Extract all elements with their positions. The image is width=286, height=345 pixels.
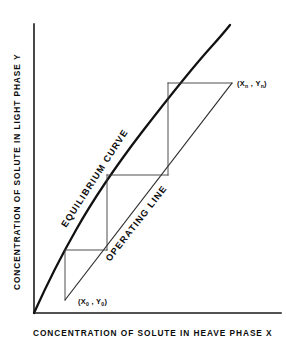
diagram-canvas: EQUILIBRIUM CURVE OPERATING LINE (X0 , Y… (0, 0, 286, 345)
point-label-top-open: (X (237, 79, 245, 88)
operating-line-label: OPERATING LINE (104, 183, 169, 263)
point-label-bottom-open: (X (78, 297, 86, 306)
point-label-top: (Xn , Yn) (237, 79, 267, 89)
equilibrium-curve (34, 25, 230, 313)
point-label-bottom: (X0 , Y0) (78, 297, 108, 307)
point-label-bottom-mid: , Y (89, 297, 101, 306)
point-label-top-mid: , Y (248, 79, 260, 88)
point-label-bottom-close: ) (105, 297, 108, 306)
point-label-top-close: ) (264, 79, 267, 88)
stage-diagram-figure: EQUILIBRIUM CURVE OPERATING LINE (X0 , Y… (0, 0, 286, 345)
x-axis-title: CONCENTRATION OF SOLUTE IN HEAVE PHASE X (33, 328, 273, 338)
equilibrium-curve-label: EQUILIBRIUM CURVE (59, 127, 130, 229)
y-axis-title: CONCENTRATION OF SOLUTE IN LIGHT PHASE Y (12, 54, 22, 290)
